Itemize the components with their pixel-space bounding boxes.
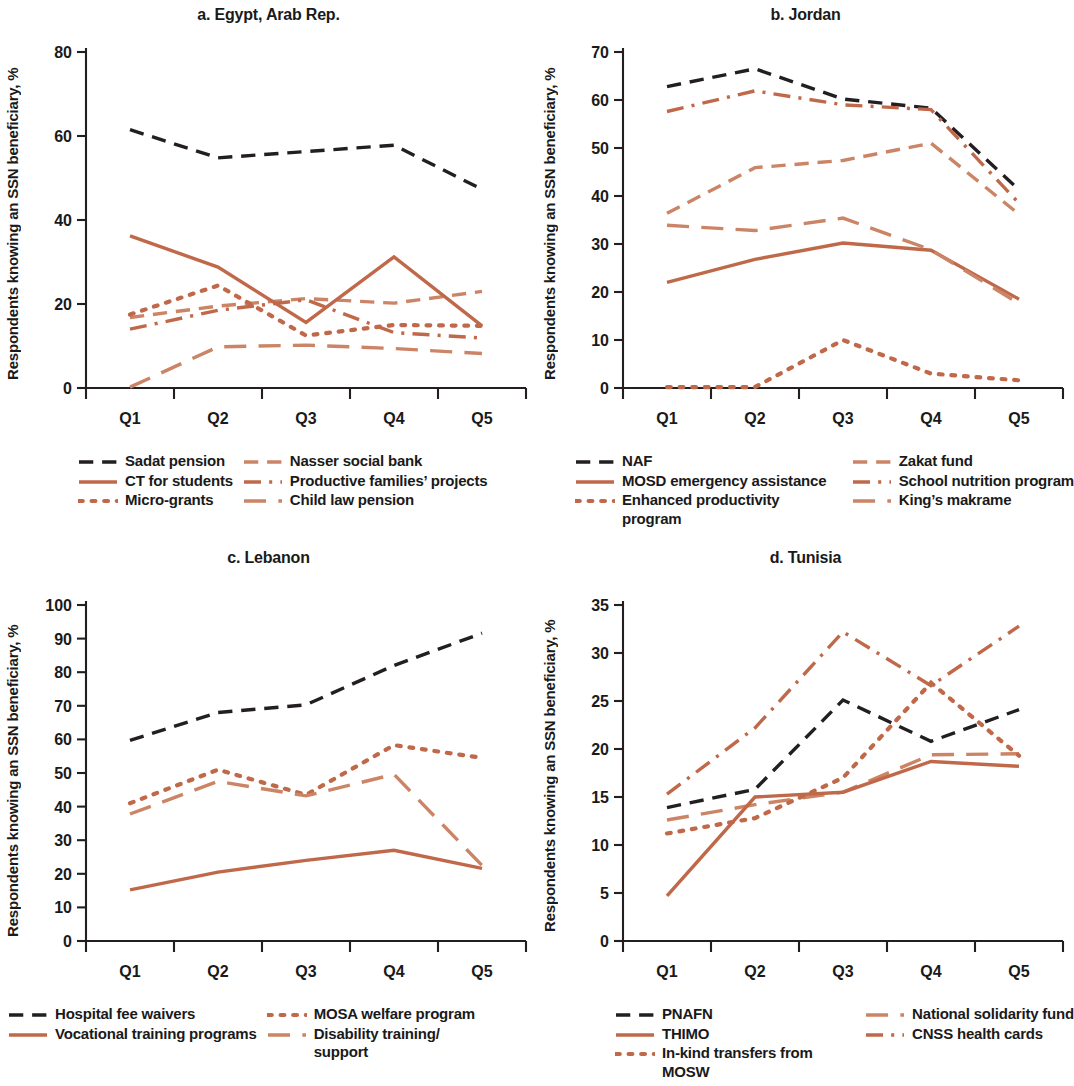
svg-text:50: 50 <box>54 765 72 782</box>
panel-b-ylabel: Respondents knowing an SSN beneficiary, … <box>541 44 558 404</box>
svg-text:Q3: Q3 <box>295 963 316 980</box>
svg-text:0: 0 <box>600 380 609 397</box>
legend-line-swatch-icon <box>243 453 283 469</box>
legend-item[interactable]: King’s makrame <box>852 491 1074 528</box>
svg-text:Q4: Q4 <box>383 410 404 427</box>
svg-text:0: 0 <box>63 933 72 950</box>
svg-text:Q2: Q2 <box>207 963 228 980</box>
panel-c-legend: Hospital fee waiversMOSA welfare program… <box>8 1005 475 1062</box>
legend-item-label: MOSA welfare program <box>314 1005 475 1024</box>
legend-item[interactable]: Nasser social bank <box>243 452 488 471</box>
svg-text:20: 20 <box>591 741 609 758</box>
svg-text:Q2: Q2 <box>207 410 228 427</box>
legend-item[interactable]: School nutrition program <box>852 472 1074 491</box>
panel-b-jordan: b. Jordan Respondents knowing an SSN ben… <box>537 0 1074 543</box>
legend-item[interactable]: Sadat pension <box>78 452 233 471</box>
legend-item[interactable]: MOSA welfare program <box>267 1005 475 1024</box>
legend-item[interactable]: MOSD emergency assistance <box>575 472 842 491</box>
legend-item[interactable]: Child law pension <box>243 491 488 510</box>
panel-a-plot: 020406080Q1Q2Q3Q4Q5 <box>34 40 534 440</box>
panel-c-plot: 0102030405060708090100Q1Q2Q3Q4Q5 <box>34 593 534 993</box>
panel-a-ylabel: Respondents knowing an SSN beneficiary, … <box>4 44 21 404</box>
svg-text:Q2: Q2 <box>744 410 765 427</box>
legend-line-swatch-icon <box>267 1026 307 1042</box>
panel-c-ylabel: Respondents knowing an SSN beneficiary, … <box>4 601 21 961</box>
svg-text:70: 70 <box>54 698 72 715</box>
panel-d-plot: 05101520253035Q1Q2Q3Q4Q5 <box>571 593 1071 993</box>
legend-item[interactable]: CT for students <box>78 472 233 491</box>
legend-item[interactable]: PNAFN <box>615 1005 855 1024</box>
legend-item[interactable]: Hospital fee waivers <box>8 1005 257 1024</box>
legend-item-label: Vocational training programs <box>55 1025 257 1044</box>
series-line-hospital-fee-waivers <box>130 633 482 740</box>
svg-text:Q5: Q5 <box>1008 963 1029 980</box>
svg-text:30: 30 <box>591 645 609 662</box>
legend-item[interactable]: THIMO <box>615 1025 855 1044</box>
svg-text:60: 60 <box>54 731 72 748</box>
svg-text:Q4: Q4 <box>920 410 941 427</box>
legend-item-label: In-kind transfers from MOSW <box>662 1044 855 1081</box>
legend-item[interactable]: Micro-grants <box>78 491 233 510</box>
legend-item-label: Child law pension <box>290 491 414 510</box>
panel-b-svg: 010203040506070Q1Q2Q3Q4Q5 <box>571 40 1071 440</box>
legend-item-label: School nutrition program <box>899 472 1074 491</box>
legend-item-label: National solidarity fund <box>912 1005 1074 1024</box>
legend-item-label: Sadat pension <box>125 452 225 471</box>
svg-text:60: 60 <box>591 92 609 109</box>
svg-text:90: 90 <box>54 631 72 648</box>
svg-text:0: 0 <box>600 933 609 950</box>
legend-line-swatch-icon <box>267 1006 307 1022</box>
panel-d-legend: PNAFNNational solidarity fundTHIMOCNSS h… <box>615 1005 1074 1081</box>
svg-text:40: 40 <box>54 212 72 229</box>
legend-item[interactable]: CNSS health cards <box>865 1025 1074 1044</box>
legend-item-label: Hospital fee waivers <box>55 1005 195 1024</box>
legend-item-label: CNSS health cards <box>912 1025 1043 1044</box>
legend-item[interactable]: NAF <box>575 452 842 471</box>
series-line-ct-for-students <box>130 236 482 326</box>
legend-item[interactable]: In-kind transfers from MOSW <box>615 1044 855 1081</box>
legend-item[interactable]: Productive families’ projects <box>243 472 488 491</box>
panel-d-title: d. Tunisia <box>537 549 1074 567</box>
legend-item-label: Productive families’ projects <box>290 472 488 491</box>
legend-item-label: PNAFN <box>662 1005 713 1024</box>
legend-line-swatch-icon <box>865 1026 905 1042</box>
legend-item[interactable]: Disability training/ support <box>267 1025 475 1062</box>
series-line-sadat-pension <box>130 130 482 190</box>
panel-c-title: c. Lebanon <box>0 549 537 567</box>
svg-text:10: 10 <box>591 837 609 854</box>
legend-item-label: MOSD emergency assistance <box>622 472 826 491</box>
legend-line-swatch-icon <box>852 492 892 508</box>
legend-item[interactable]: Enhanced productivity program <box>575 491 842 528</box>
svg-text:10: 10 <box>591 332 609 349</box>
legend-item-label: Disability training/ support <box>314 1025 440 1062</box>
legend-line-swatch-icon <box>243 492 283 508</box>
legend-item[interactable]: National solidarity fund <box>865 1005 1074 1024</box>
panel-a-svg: 020406080Q1Q2Q3Q4Q5 <box>34 40 534 440</box>
panel-b-plot: 010203040506070Q1Q2Q3Q4Q5 <box>571 40 1071 440</box>
series-line-thimo <box>667 761 1019 895</box>
legend-line-swatch-icon <box>575 473 615 489</box>
series-line-enhanced-productivity-program <box>667 340 1019 387</box>
legend-item-label: NAF <box>622 452 652 471</box>
legend-item[interactable]: Zakat fund <box>852 452 1074 471</box>
legend-line-swatch-icon <box>615 1006 655 1022</box>
legend-line-swatch-icon <box>615 1045 655 1061</box>
legend-line-swatch-icon <box>78 492 118 508</box>
svg-text:Q3: Q3 <box>295 410 316 427</box>
series-line-cnss-health-cards <box>667 626 1019 794</box>
svg-text:30: 30 <box>54 832 72 849</box>
svg-text:Q3: Q3 <box>832 410 853 427</box>
legend-line-swatch-icon <box>575 453 615 469</box>
svg-text:Q5: Q5 <box>471 410 492 427</box>
svg-text:70: 70 <box>591 44 609 61</box>
panel-a-title: a. Egypt, Arab Rep. <box>0 6 537 24</box>
legend-item-label: Nasser social bank <box>290 452 422 471</box>
panel-b-legend: NAFZakat fundMOSD emergency assistanceSc… <box>575 452 1074 528</box>
series-line-vocational-training-programs <box>130 850 482 890</box>
svg-text:Q2: Q2 <box>744 963 765 980</box>
legend-item-label: THIMO <box>662 1025 709 1044</box>
series-line-king-s-makrame <box>667 218 1019 303</box>
svg-text:Q5: Q5 <box>471 963 492 980</box>
legend-item[interactable]: Vocational training programs <box>8 1025 257 1062</box>
legend-line-swatch-icon <box>78 473 118 489</box>
